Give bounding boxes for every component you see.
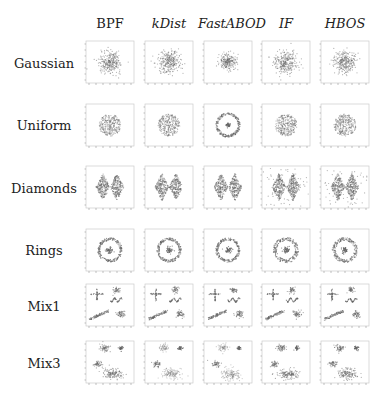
row-label-mix1: Mix1 bbox=[0, 299, 88, 314]
scatter-plot-diamonds-bpf bbox=[84, 165, 136, 213]
scatter-plot-mix3-bpf bbox=[84, 340, 136, 388]
scatter-plot-rings-kdist bbox=[143, 228, 195, 276]
row-label-gaussian: Gaussian bbox=[0, 56, 88, 71]
scatter-plot-mix3-if bbox=[260, 340, 312, 388]
scatter-plot-rings-bpf bbox=[84, 228, 136, 276]
scatter-plot-gaussian-hbos bbox=[319, 40, 371, 88]
scatter-plot-uniform-bpf bbox=[84, 103, 136, 151]
col-header-hbos: HBOS bbox=[315, 16, 375, 31]
scatter-plot-diamonds-hbos bbox=[319, 165, 371, 213]
scatter-plot-diamonds-fastabod bbox=[202, 165, 254, 213]
scatter-plot-rings-fastabod bbox=[202, 228, 254, 276]
scatter-plot-uniform-if bbox=[260, 103, 312, 151]
col-header-fastabod: FastABOD bbox=[198, 16, 262, 31]
scatter-plot-gaussian-if bbox=[260, 40, 312, 88]
scatter-plot-mix3-hbos bbox=[319, 340, 371, 388]
scatter-plot-gaussian-bpf bbox=[84, 40, 136, 88]
scatter-plot-diamonds-kdist bbox=[143, 165, 195, 213]
scatter-plot-mix1-bpf bbox=[84, 283, 136, 331]
row-label-rings: Rings bbox=[0, 243, 88, 258]
scatter-plot-mix1-if bbox=[260, 283, 312, 331]
scatter-plot-gaussian-fastabod bbox=[202, 40, 254, 88]
scatter-plot-mix1-kdist bbox=[143, 283, 195, 331]
row-label-uniform: Uniform bbox=[0, 118, 88, 133]
scatter-plot-mix3-fastabod bbox=[202, 340, 254, 388]
col-header-kdist: kDist bbox=[139, 16, 199, 31]
scatter-plot-uniform-kdist bbox=[143, 103, 195, 151]
scatter-plot-uniform-hbos bbox=[319, 103, 371, 151]
scatter-plot-mix3-kdist bbox=[143, 340, 195, 388]
scatter-plot-uniform-fastabod bbox=[202, 103, 254, 151]
scatter-plot-rings-if bbox=[260, 228, 312, 276]
scatter-plot-mix1-hbos bbox=[319, 283, 371, 331]
scatter-plot-rings-hbos bbox=[319, 228, 371, 276]
col-header-bpf: BPF bbox=[80, 16, 140, 31]
scatter-plot-gaussian-kdist bbox=[143, 40, 195, 88]
scatter-plot-mix1-fastabod bbox=[202, 283, 254, 331]
col-header-if: IF bbox=[256, 16, 316, 31]
scatter-plot-diamonds-if bbox=[260, 165, 312, 213]
row-label-diamonds: Diamonds bbox=[0, 181, 88, 196]
row-label-mix3: Mix3 bbox=[0, 356, 88, 371]
